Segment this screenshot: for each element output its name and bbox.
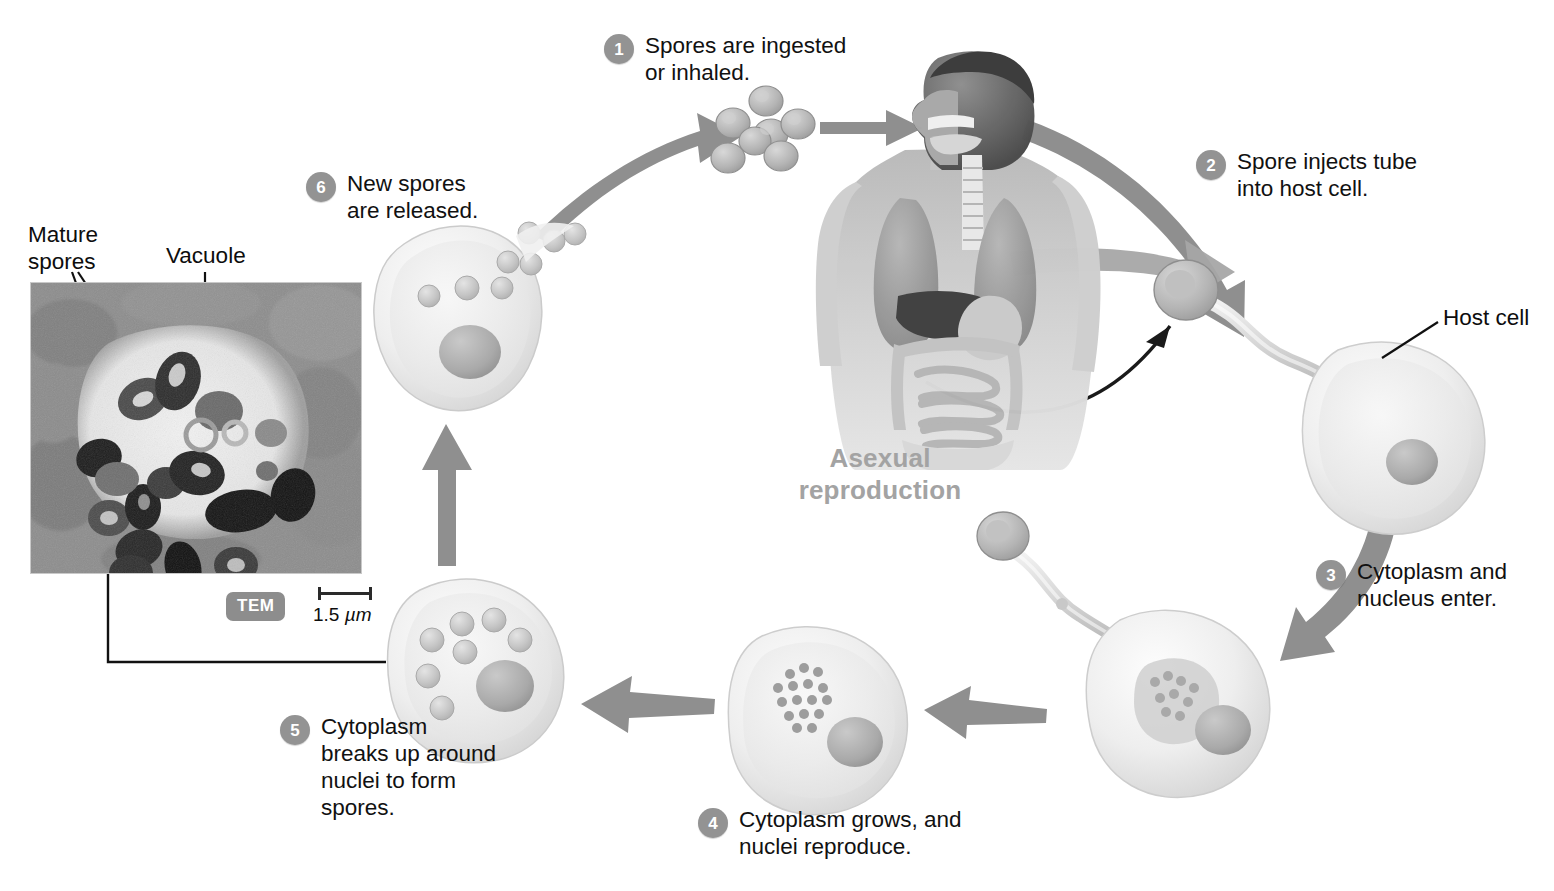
tem-technique-badge: TEM — [226, 592, 285, 621]
arrow-torso-wide — [1010, 240, 1235, 303]
multiplying-nuclei — [773, 663, 832, 733]
human-figure-illustration — [816, 51, 1101, 470]
tube-hook-lower — [1126, 652, 1142, 671]
host-cell-leader-line — [1382, 322, 1438, 358]
host-nucleus-step6 — [439, 325, 501, 379]
human-hair — [930, 51, 1034, 104]
step-number-2: 2 — [1196, 150, 1226, 180]
polar-tube-upper — [1205, 300, 1348, 396]
entering-nuclei — [1150, 671, 1199, 721]
host-cell-nucleus — [1386, 439, 1438, 485]
spore-with-polar-tube-lower — [977, 512, 1142, 671]
polar-tube-lower — [1014, 552, 1136, 652]
lung-left — [874, 198, 939, 352]
asexual-reproduction-title: Asexual reproduction — [760, 443, 1000, 506]
step-number-4: 4 — [698, 808, 728, 838]
arrow-4-to-5 — [581, 676, 715, 733]
spore-body-upper — [1154, 260, 1218, 320]
forming-spores-step5 — [416, 608, 532, 720]
spore-body-lower — [977, 512, 1029, 560]
lung-right — [974, 198, 1036, 352]
trachea-rings — [963, 168, 983, 240]
human-left-arm — [816, 182, 862, 366]
step-number-6: 6 — [306, 172, 336, 202]
entering-cytoplasm — [1134, 658, 1219, 744]
arrow-spores-to-human — [820, 110, 923, 146]
releasing-cell-step6 — [374, 222, 586, 411]
scale-value: 1.5 — [313, 604, 339, 625]
step-text-5: Cytoplasm breaks up around nuclei to for… — [321, 713, 496, 821]
step-text-1: Spores are ingested or inhaled. — [645, 32, 846, 86]
step-text-6: New spores are released. — [347, 170, 478, 224]
step-text-3: Cytoplasm and nucleus enter. — [1357, 558, 1507, 612]
host-nucleus-step5 — [476, 660, 534, 712]
human-right-arm — [1052, 176, 1101, 372]
scale-unit: µm — [345, 604, 372, 625]
spore-nucleus-upper — [1165, 270, 1195, 298]
growing-cell-step4 — [728, 627, 907, 815]
spore-with-polar-tube-upper — [1154, 260, 1352, 414]
step-callout-1: 1 Spores are ingested or inhaled. — [604, 32, 846, 86]
step-text-2: Spore injects tube into host cell. — [1237, 148, 1417, 202]
step-text-4: Cytoplasm grows, and nuclei reproduce. — [739, 806, 962, 860]
stomach — [958, 296, 1022, 360]
scale-bar-label: 1.5 µm — [313, 604, 371, 626]
small-intestine — [918, 370, 1000, 446]
large-intestine — [891, 344, 906, 430]
arrow-5-to-6 — [422, 424, 472, 566]
label-mature-spores: Mature spores — [28, 222, 98, 275]
step-number-5: 5 — [280, 715, 310, 745]
step-callout-4: 4 Cytoplasm grows, and nuclei reproduce. — [698, 806, 962, 860]
human-neck — [930, 110, 990, 170]
released-spores — [518, 222, 586, 275]
spores-inside-step6 — [418, 251, 519, 307]
step-callout-6: 6 New spores are released. — [306, 170, 478, 224]
host-nucleus-step4 — [827, 717, 883, 767]
arrow-3-to-4 — [924, 686, 1047, 739]
step-number-1: 1 — [604, 34, 634, 64]
spore-nucleus-lower — [986, 520, 1010, 542]
transverse-colon — [898, 337, 1020, 358]
host-nucleus-step3 — [1195, 705, 1251, 755]
arrow-6-to-1 — [534, 113, 742, 243]
arrow-abdomen-to-spore-head — [1146, 326, 1170, 348]
human-face — [912, 90, 958, 165]
cycle-arrows — [422, 110, 1398, 739]
label-vacuole: Vacuole — [166, 243, 246, 270]
liver — [896, 291, 989, 339]
oral-cavity — [930, 134, 982, 154]
human-head — [912, 51, 1034, 170]
arrow-abdomen-to-spore — [926, 326, 1170, 412]
tem-micrograph-render — [31, 283, 361, 573]
tube-hook-upper — [1336, 396, 1352, 414]
trachea — [962, 155, 984, 250]
large-intestine-2 — [1006, 344, 1023, 430]
step-callout-5: 5 Cytoplasm breaks up around nuclei to f… — [280, 713, 496, 821]
tem-micrograph-image — [30, 282, 362, 574]
ingested-spore-cluster — [711, 86, 815, 173]
host-cell — [1303, 342, 1485, 534]
infected-cell-step3 — [1086, 610, 1270, 797]
nasal-cavity — [928, 115, 974, 130]
label-host-cell: Host cell — [1443, 305, 1529, 332]
human-torso — [828, 148, 1094, 470]
figure-canvas: TEM 1.5 µm Mature spores Vacuole Host ce… — [0, 0, 1554, 891]
step-callout-3: 3 Cytoplasm and nucleus enter. — [1316, 558, 1507, 612]
step-number-3: 3 — [1316, 560, 1346, 590]
step-callout-2: 2 Spore injects tube into host cell. — [1196, 148, 1417, 202]
